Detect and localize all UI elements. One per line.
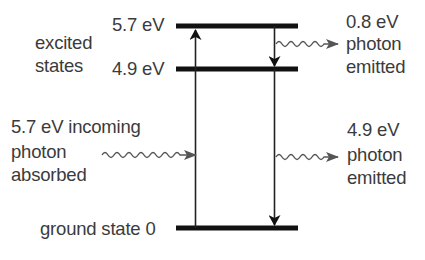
level-label-4-9ev: 4.9 eV: [112, 58, 164, 80]
emission-top-label-line2: photon: [346, 33, 401, 55]
level-label-ground: ground state 0: [40, 218, 155, 240]
level-label-5-7ev: 5.7 eV: [112, 14, 164, 36]
emission-bottom-label-line3: emitted: [347, 167, 406, 189]
absorption-label-line3: absorbed: [11, 164, 87, 186]
emission-top-label-line1: 0.8 eV: [346, 11, 398, 33]
emission-bottom-label-line2: photon: [347, 144, 402, 166]
absorption-label-line1: 5.7 eV incoming: [11, 116, 141, 138]
emission-top-label-line3: emitted: [346, 56, 405, 78]
incoming-photon-wave-icon: [102, 153, 196, 158]
excited-states-label-line2: states: [35, 55, 83, 77]
emitted-photon-wave-top-icon: [276, 42, 338, 47]
emitted-photon-wave-bottom-icon: [276, 155, 338, 160]
emission-bottom-label-line1: 4.9 eV: [347, 119, 399, 141]
absorption-label-line2: photon: [11, 141, 66, 163]
excited-states-label-line1: excited: [35, 32, 92, 54]
